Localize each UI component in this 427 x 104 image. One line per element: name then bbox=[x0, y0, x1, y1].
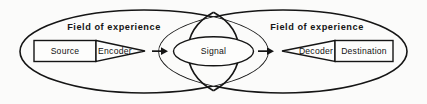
right-field-of-experience-label: Field of experience bbox=[270, 22, 364, 32]
encoder-label: Encoder bbox=[98, 46, 132, 56]
diagram-canvas: Field of experience Field of experience … bbox=[0, 0, 427, 104]
schramm-communication-diagram: Field of experience Field of experience … bbox=[0, 0, 427, 104]
destination-label: Destination bbox=[341, 46, 387, 56]
signal-label: Signal bbox=[201, 46, 226, 56]
source-label: Source bbox=[51, 46, 80, 56]
decoder-label: Decoder bbox=[299, 46, 333, 56]
left-field-of-experience-label: Field of experience bbox=[67, 22, 161, 32]
